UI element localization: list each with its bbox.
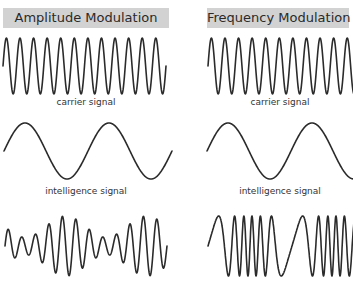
fm-panel: Frequency Modulation carrier signal inte… <box>0 0 347 284</box>
fm-modulated-wave <box>0 0 347 284</box>
